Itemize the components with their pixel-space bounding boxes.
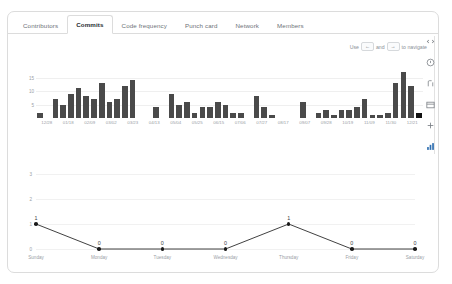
issue-opened-icon[interactable] [423, 57, 437, 68]
bar-chart-bar-cell[interactable] [121, 64, 129, 118]
bar-chart-bar-cell[interactable] [392, 64, 400, 118]
bar-chart-bar-cell[interactable] [322, 64, 330, 118]
bar-chart-bar-cell[interactable] [144, 64, 152, 118]
bar-chart-bar-cell[interactable] [152, 64, 160, 118]
bar-chart-bar[interactable] [238, 113, 244, 118]
code-icon[interactable] [423, 36, 437, 47]
bar-chart-bar-cell[interactable] [299, 64, 307, 118]
bar-chart-bar[interactable] [153, 107, 159, 118]
bar-chart-bar-cell[interactable] [245, 64, 253, 118]
bar-chart-bar[interactable] [53, 99, 59, 118]
bar-chart-bar[interactable] [362, 99, 368, 118]
bar-chart-bar-cell[interactable] [338, 64, 346, 118]
bar-chart-bar-cell[interactable] [137, 64, 145, 118]
line-chart-marker[interactable] [97, 247, 101, 251]
bar-chart-bar-cell[interactable] [229, 64, 237, 118]
bar-chart-bar-cell[interactable] [160, 64, 168, 118]
bar-chart-bar-cell[interactable] [113, 64, 121, 118]
bar-chart-bar-cell[interactable] [400, 64, 408, 118]
bar-chart-bar[interactable] [261, 107, 267, 118]
bar-chart-bar[interactable] [130, 80, 136, 118]
bar-chart-bar[interactable] [169, 94, 175, 118]
bar-chart-bar-cell[interactable] [353, 64, 361, 118]
bar-chart-bar[interactable] [254, 96, 260, 118]
line-chart-marker[interactable] [161, 247, 165, 251]
bar-chart-bar-cell[interactable] [75, 64, 83, 118]
bar-chart-bar[interactable] [269, 115, 275, 118]
line-chart-marker[interactable] [34, 222, 38, 226]
bar-chart-bar-cell[interactable] [90, 64, 98, 118]
bar-chart-bar-cell[interactable] [376, 64, 384, 118]
bar-chart-bar-cell[interactable] [183, 64, 191, 118]
line-chart-marker[interactable] [350, 247, 354, 251]
bar-chart-bar[interactable] [377, 115, 383, 118]
bar-chart-bar-cell[interactable] [284, 64, 292, 118]
bar-chart-bar-cell[interactable] [307, 64, 315, 118]
bar-chart-bar[interactable] [192, 113, 198, 118]
bar-chart-bar-cell[interactable] [36, 64, 44, 118]
bar-chart-bar-cell[interactable] [268, 64, 276, 118]
bar-chart-bar[interactable] [207, 107, 213, 118]
bar-chart-bar-cell[interactable] [260, 64, 268, 118]
bar-chart-bar[interactable] [122, 86, 128, 118]
bar-chart-bar-cell[interactable] [314, 64, 322, 118]
bar-chart-bar-cell[interactable] [237, 64, 245, 118]
bar-chart-bar[interactable] [331, 115, 337, 118]
tab-network[interactable]: Network [227, 16, 269, 34]
bar-chart-bar-cell[interactable] [206, 64, 214, 118]
weekly-commits-bar-chart[interactable]: 15105 12/2801/1802/0903/0203/2304/1305/0… [19, 64, 423, 134]
bar-chart-bar-cell[interactable] [369, 64, 377, 118]
tab-code-frequency[interactable]: Code frequency [113, 16, 176, 34]
bar-chart-bar-cell[interactable] [51, 64, 59, 118]
bar-chart-bar[interactable] [339, 110, 345, 118]
bar-chart-bar[interactable] [107, 102, 113, 118]
tab-contributors[interactable]: Contributors [14, 16, 67, 34]
bar-chart-bar[interactable] [184, 102, 190, 118]
arrow-left-key[interactable]: ← [361, 42, 374, 51]
project-board-icon[interactable] [423, 99, 437, 110]
bar-chart-bar[interactable] [370, 115, 376, 118]
bar-chart-bar[interactable] [76, 88, 82, 118]
bar-chart-bar-cell[interactable] [384, 64, 392, 118]
bar-chart-bar-cell[interactable] [330, 64, 338, 118]
bar-chart-bar[interactable] [346, 110, 352, 118]
bar-chart-bar[interactable] [91, 99, 97, 118]
bar-chart-bar-cell[interactable] [276, 64, 284, 118]
bar-chart-bar-cell[interactable] [361, 64, 369, 118]
bar-chart-bar[interactable] [300, 102, 306, 118]
bar-chart-bar-cell[interactable] [222, 64, 230, 118]
bar-chart-bar[interactable] [393, 83, 399, 118]
bar-chart-bar-cell[interactable] [167, 64, 175, 118]
bar-chart-bar[interactable] [68, 94, 74, 118]
bar-chart-bar-cell[interactable] [44, 64, 52, 118]
bar-chart-bar-cell[interactable] [214, 64, 222, 118]
bar-chart-bar[interactable] [323, 110, 329, 118]
bar-chart-bar-cell[interactable] [175, 64, 183, 118]
bar-chart-bar-cell[interactable] [407, 64, 415, 118]
bar-chart-bar-selected[interactable] [416, 113, 422, 118]
bar-chart-bar[interactable] [354, 107, 360, 118]
bar-chart-bar[interactable] [316, 113, 322, 118]
bar-chart-bar-cell[interactable] [253, 64, 261, 118]
graph-bar-icon[interactable] [423, 141, 437, 152]
bar-chart-bar-cell[interactable] [198, 64, 206, 118]
bar-chart-bar-cell[interactable] [82, 64, 90, 118]
bar-chart-bar[interactable] [176, 105, 182, 119]
bar-chart-bar-cell[interactable] [106, 64, 114, 118]
bar-chart-bar[interactable] [83, 96, 89, 118]
bar-chart-bar[interactable] [114, 99, 120, 118]
bar-chart-bar[interactable] [99, 83, 105, 118]
bar-chart-bar-cell[interactable] [98, 64, 106, 118]
bar-chart-bar[interactable] [215, 102, 221, 118]
bar-chart-bar[interactable] [385, 113, 391, 118]
bar-chart-bar-cell[interactable] [191, 64, 199, 118]
day-of-week-line-chart[interactable]: 3210 1000100 SundayMondayTuesdayWednesda… [19, 145, 423, 267]
bar-chart-bar-cell[interactable] [59, 64, 67, 118]
bar-chart-bars[interactable] [36, 64, 423, 118]
git-pull-request-icon[interactable] [423, 78, 437, 89]
bar-chart-bar-cell[interactable] [67, 64, 75, 118]
line-chart-marker[interactable] [413, 247, 417, 251]
bar-chart-bar[interactable] [223, 105, 229, 119]
bar-chart-bar-cell[interactable] [129, 64, 137, 118]
bar-chart-bar-cell[interactable] [345, 64, 353, 118]
